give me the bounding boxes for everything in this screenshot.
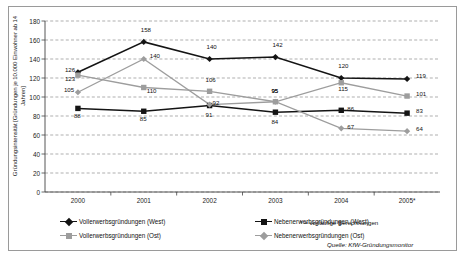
y-axis-tick-label: 80 <box>18 113 40 120</box>
data-point-label: 95 <box>271 87 278 94</box>
y-axis-tick-label: 140 <box>18 56 40 63</box>
x-axis-tick-label: 2004 <box>321 197 361 204</box>
y-axis-tick-label: 160 <box>18 37 40 44</box>
data-point-label: 106 <box>206 76 216 83</box>
data-point-label: 115 <box>338 85 348 92</box>
data-point-label: 91 <box>206 111 213 118</box>
data-point-label: 85 <box>140 115 147 122</box>
data-point-label: 140 <box>207 43 217 50</box>
legend-item: Vollerwerbsgründungen (West) <box>60 218 165 225</box>
legend-marker-square-icon <box>261 219 267 225</box>
legend-line-swatch <box>255 221 272 222</box>
y-axis-tick-label: 100 <box>18 94 40 101</box>
legend-item: Nebenerwerbsgründungen (Ost) <box>255 232 364 239</box>
y-axis-tick-label: 20 <box>18 170 40 177</box>
data-point-label: 101 <box>416 90 426 97</box>
data-point-label: 110 <box>147 87 157 94</box>
legend-marker-diamond-icon <box>64 218 72 226</box>
footnote-text: * = vorläufige Berechnungen <box>300 219 378 226</box>
data-point-label: 92 <box>213 99 220 106</box>
data-point-label: 83 <box>416 107 423 114</box>
x-axis-tick-label: 2003 <box>255 197 295 204</box>
y-axis-tick-label: 40 <box>18 151 40 158</box>
legend-label: Nebenerwerbsgründungen (Ost) <box>274 232 364 239</box>
data-point-label: 140 <box>150 52 160 59</box>
source-text: Quelle: KfW-Gründungsmonitor <box>327 241 413 248</box>
legend-marker-diamond-icon <box>259 232 267 240</box>
y-axis-tick-label: 120 <box>18 75 40 82</box>
data-point-label: 120 <box>338 62 348 69</box>
y-axis-tick-label: 0 <box>18 189 40 196</box>
legend-label: Vollerwerbsgründungen (Ost) <box>79 232 161 239</box>
legend-label: Vollerwerbsgründungen (West) <box>79 218 165 225</box>
y-axis-tick-label: 180 <box>18 18 40 25</box>
y-axis-tick-label: 60 <box>18 132 40 139</box>
data-point-label: 142 <box>272 41 282 48</box>
legend-line-swatch <box>255 235 272 236</box>
x-axis-tick-label: 2002 <box>190 197 230 204</box>
legend-line-swatch <box>60 235 77 236</box>
data-point-label: 84 <box>271 118 278 125</box>
x-axis-tick-label: 2000 <box>58 197 98 204</box>
data-point-label: 67 <box>347 123 354 130</box>
data-point-label: 88 <box>74 112 81 119</box>
legend-line-swatch <box>60 221 77 222</box>
data-point-label: 123 <box>65 75 75 82</box>
x-axis-tick-label: 2005* <box>387 197 427 204</box>
data-point-label: 64 <box>416 125 423 132</box>
x-axis-tick-label: 2001 <box>124 197 164 204</box>
data-point-label: 86 <box>347 105 354 112</box>
chart-figure: Gründungsintensität [Gründungen je 10.00… <box>0 0 465 264</box>
data-point-label: 119 <box>416 72 426 79</box>
data-point-label: 158 <box>141 26 151 33</box>
legend-item: Vollerwerbsgründungen (Ost) <box>60 232 161 239</box>
legend-marker-square-icon <box>66 233 72 239</box>
data-point-label: 105 <box>64 86 74 93</box>
data-point-label: 126 <box>65 66 75 73</box>
